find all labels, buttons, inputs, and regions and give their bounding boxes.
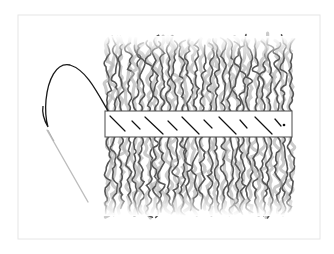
- illustration-canvas: [0, 0, 334, 254]
- thread: [43, 65, 108, 127]
- needle-icon: [47, 130, 88, 202]
- hair-fade-bottom: [100, 142, 298, 216]
- thread-knot: [283, 124, 286, 127]
- hair-weft-sewing-illustration: [0, 0, 334, 254]
